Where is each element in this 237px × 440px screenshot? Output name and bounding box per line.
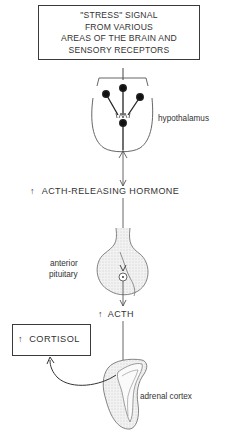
pituitary-label-line1: anterior [49, 258, 78, 269]
diagram-drawing [0, 0, 237, 440]
crh-label: ↑ ACTH-RELEASING HORMONE [30, 186, 179, 196]
pituitary-label-line2: pituitary [49, 269, 78, 280]
cortisol-text: CORTISOL [29, 334, 80, 344]
adrenal-cortex-label: adrenal cortex [140, 392, 192, 401]
pituitary-label: anterior pituitary [49, 258, 78, 280]
acth-text: ACTH [108, 309, 134, 319]
hypothalamus-label: hypothalamus [158, 114, 209, 123]
acth-label: ↑ ACTH [98, 309, 134, 319]
cortisol-box: ↑ CORTISOL [12, 324, 91, 356]
increase-arrow-icon: ↑ [30, 186, 35, 196]
crh-text: ACTH-RELEASING HORMONE [42, 186, 179, 196]
increase-arrow-icon: ↑ [18, 334, 23, 344]
increase-arrow-icon: ↑ [98, 309, 103, 319]
